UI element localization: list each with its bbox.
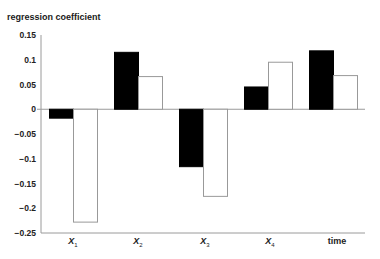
bar-x3-series-2: [204, 109, 228, 196]
x-tick-label: time: [328, 236, 347, 246]
bar-time-series-1: [310, 51, 334, 109]
bar-x4-series-1: [245, 87, 269, 109]
x-tick-label: X2: [133, 236, 142, 248]
bar-x4-series-2: [269, 62, 293, 109]
bar-x3-series-1: [180, 109, 204, 166]
x-tick-label: X1: [68, 236, 77, 248]
bar-x2-series-2: [139, 77, 163, 110]
bar-x1-series-1: [50, 109, 74, 118]
bar-chart: regression coefficient 0.150.10.050−0.05…: [0, 0, 380, 259]
plot-area: [0, 0, 380, 259]
bar-x1-series-2: [74, 109, 98, 222]
bar-time-series-2: [334, 76, 358, 110]
x-tick-label: X4: [265, 236, 274, 248]
bar-x2-series-1: [115, 52, 139, 109]
x-tick-label: X3: [200, 236, 209, 248]
